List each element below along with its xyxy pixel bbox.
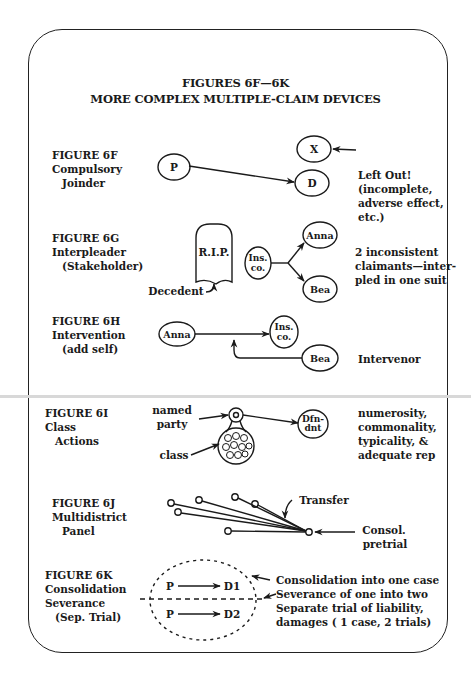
figure-6k-diagram bbox=[140, 560, 276, 640]
p2-label: P bbox=[166, 608, 174, 620]
arrow-transfer bbox=[285, 500, 292, 518]
consol-label: Consol. bbox=[362, 524, 406, 536]
bea-label: Bea bbox=[310, 284, 330, 295]
arrow-to-defendant bbox=[243, 415, 298, 423]
arrow-bea-intervenes bbox=[234, 340, 302, 358]
district-court bbox=[232, 494, 238, 500]
anna-label: Anna bbox=[305, 230, 333, 241]
ins-label: Ins. bbox=[275, 322, 294, 332]
arrow-consolidation bbox=[252, 576, 270, 580]
arrow-to-bea bbox=[288, 263, 304, 281]
district-court bbox=[168, 500, 174, 506]
arrow-severance bbox=[264, 594, 276, 598]
bea-label: Bea bbox=[310, 353, 330, 364]
case-boundary bbox=[150, 560, 256, 640]
figure-6f-diagram bbox=[158, 136, 356, 196]
arrow-left-out bbox=[333, 149, 356, 150]
arrow-class bbox=[191, 444, 219, 455]
p1-label: P bbox=[166, 580, 174, 592]
district-court bbox=[196, 497, 202, 503]
district-court bbox=[225, 528, 231, 534]
class-icon bbox=[218, 428, 254, 464]
pretrial-label: pretrial bbox=[363, 538, 408, 550]
named-label: named bbox=[152, 404, 192, 416]
decedent-label: Decedent bbox=[148, 285, 204, 297]
arrow-decedent bbox=[206, 284, 214, 292]
arrow-named-party bbox=[199, 415, 228, 419]
d2-label: D2 bbox=[224, 608, 240, 620]
tombstone-label: R.I.P. bbox=[199, 246, 230, 258]
node-d-label: D bbox=[307, 177, 316, 189]
party-label: party bbox=[157, 418, 189, 430]
named-party-icon bbox=[229, 408, 243, 422]
co-label: co. bbox=[277, 332, 291, 342]
class-label: class bbox=[159, 449, 188, 461]
node-x-label: X bbox=[310, 143, 319, 155]
consolidated-court bbox=[306, 529, 312, 535]
dnt-label: dnt bbox=[305, 423, 323, 433]
arrow-to-anna bbox=[288, 243, 304, 263]
co-label: co. bbox=[251, 263, 265, 273]
arrow-p-to-d bbox=[189, 166, 294, 182]
diagrams: P D X R.I.P. Decedent Ins. co. Anna Bea … bbox=[0, 0, 471, 680]
node-p-label: P bbox=[170, 161, 178, 173]
anna-label: Anna bbox=[162, 329, 190, 340]
district-court bbox=[175, 509, 181, 515]
d1-label: D1 bbox=[224, 580, 240, 592]
transfer-label: Transfer bbox=[299, 494, 349, 506]
ins-label: Ins. bbox=[249, 253, 268, 263]
